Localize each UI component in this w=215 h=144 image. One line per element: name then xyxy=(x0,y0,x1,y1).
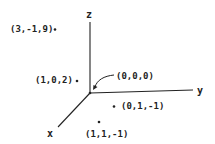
z-axis-label: z xyxy=(86,9,92,20)
origin-arrow xyxy=(95,75,114,87)
y-axis-label: y xyxy=(197,85,203,96)
point-label: (3,-1,9) xyxy=(10,24,53,34)
x-axis-label: x xyxy=(47,128,53,139)
point-marker xyxy=(76,80,79,83)
point-label: (1,0,2) xyxy=(35,75,73,85)
y-axis xyxy=(90,90,193,93)
point-marker xyxy=(98,121,101,124)
origin-label: (0,0,0) xyxy=(116,71,154,81)
point-marker xyxy=(113,105,116,108)
point-label: (1,1,-1) xyxy=(85,129,128,139)
coordinate-diagram: z y x (0,0,0) (3,-1,9) (1,0,2) (0,1,-1) … xyxy=(0,0,215,144)
point-label: (0,1,-1) xyxy=(121,101,164,111)
origin-point xyxy=(89,92,92,95)
x-axis xyxy=(58,93,90,127)
point-marker xyxy=(54,28,57,31)
